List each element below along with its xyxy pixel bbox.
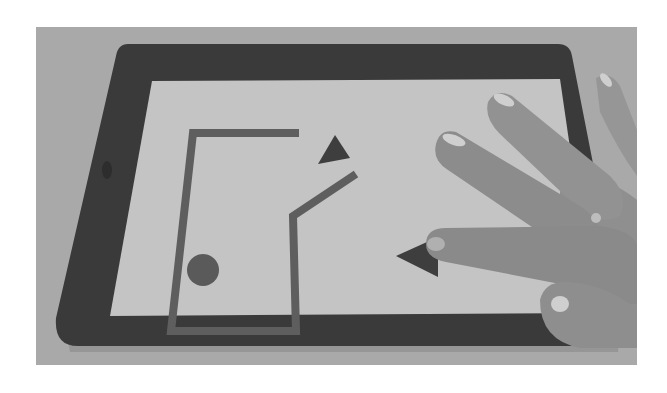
- fingernail: [551, 296, 569, 312]
- fingernail: [427, 237, 445, 251]
- ball[interactable]: [187, 254, 219, 286]
- tablet-camera-icon: [102, 161, 112, 179]
- photo: [36, 27, 637, 365]
